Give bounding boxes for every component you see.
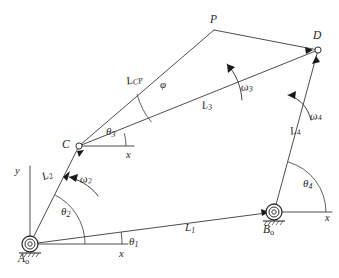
link-line-pd	[214, 30, 318, 50]
label-angle-theta1: θ1	[129, 236, 138, 249]
label-point-a0: Ao	[18, 253, 29, 266]
joint-marker-d	[315, 47, 321, 53]
label-link-l3: L3	[201, 99, 213, 113]
label-omega4: ω4	[309, 109, 322, 123]
label-link-l1: L1	[185, 222, 195, 235]
label-omega3: ω3	[240, 80, 253, 94]
label-x-axis-b0: x	[325, 213, 330, 224]
link-line-l2	[30, 146, 79, 244]
linkage-diagram: Ao Bo C D P L1 L2 L3 L4 LCP θ1 θ2 θ3 θ4 …	[0, 0, 339, 278]
angle-arc-theta3	[124, 133, 126, 146]
joint-marker-c	[76, 143, 82, 149]
label-point-c: C	[62, 139, 70, 151]
label-x-axis-a0: x	[119, 249, 124, 260]
c-joint-arrowhead	[77, 150, 84, 157]
label-point-d: D	[313, 30, 321, 42]
label-point-b0: Bo	[263, 224, 274, 237]
label-x-axis-c: x	[126, 150, 131, 161]
label-angle-theta4: θ4	[303, 178, 312, 191]
d-arrowhead-from-l4	[312, 56, 320, 64]
ground-pivot-assembly-b0	[263, 204, 285, 225]
omega4-arrowhead	[288, 91, 296, 99]
angle-arc-theta2	[55, 195, 85, 244]
omega2-arrowhead	[69, 174, 78, 182]
label-y-axis-a0: y	[15, 166, 20, 177]
label-omega2: ω2	[79, 172, 92, 186]
omega3-arrowhead	[227, 64, 235, 73]
label-angle-phi: φ	[160, 79, 166, 90]
label-angle-theta2: θ2	[61, 206, 70, 219]
link-line-lcp	[79, 30, 214, 146]
label-angle-theta3: θ3	[106, 126, 115, 139]
omega4-curve	[288, 95, 311, 120]
label-point-p: P	[210, 14, 217, 26]
linkage-vector-canvas	[0, 0, 339, 278]
angle-arc-theta1	[121, 232, 122, 244]
